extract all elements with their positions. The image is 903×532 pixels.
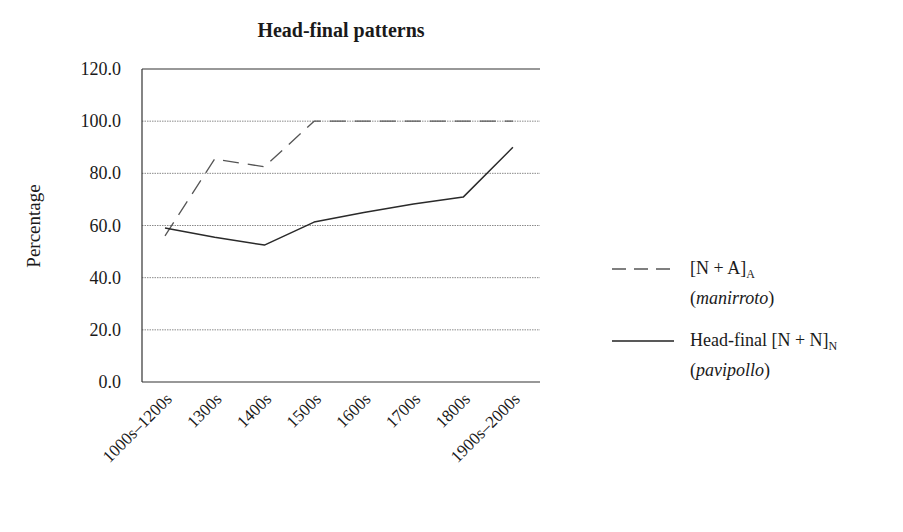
chart-title: Head-final patterns	[257, 19, 424, 42]
y-tick-labels: 0.020.040.060.080.0100.0120.0	[81, 59, 122, 392]
x-tick-label: 1800s	[432, 389, 474, 431]
legend-label-main: Head-final [N + N]	[690, 330, 829, 350]
y-tick-label: 100.0	[81, 111, 122, 131]
legend-label-gloss: manirroto	[696, 288, 768, 308]
y-tick-label: 120.0	[81, 59, 122, 79]
x-tick-label: 1700s	[382, 389, 424, 431]
y-axis-label: Percentage	[23, 184, 44, 267]
legend-label-subscript: A	[746, 267, 755, 281]
chart-container: Head-final patterns Percentage 0.020.040…	[0, 0, 903, 532]
legend-label-subscript: N	[829, 339, 838, 353]
x-tick-labels: 1000s–1200s1300s1400s1500s1600s1700s1800…	[99, 389, 524, 466]
series-line-n-plus-a	[165, 121, 513, 236]
gridlines	[142, 121, 540, 330]
legend-item-n-plus-a: [N + A]A (manirroto)	[612, 256, 902, 308]
x-tick-label: 1600s	[332, 389, 374, 431]
data-series	[165, 121, 513, 245]
x-tick-label: 1300s	[183, 389, 225, 431]
y-tick-label: 80.0	[90, 163, 122, 183]
y-tick-label: 0.0	[99, 372, 122, 392]
solid-line-swatch-icon	[612, 339, 674, 343]
x-tick-label: 1500s	[283, 389, 325, 431]
legend: [N + A]A (manirroto) Head-final [N + N]N…	[612, 256, 902, 400]
x-tick-label: 1400s	[233, 389, 275, 431]
y-tick-label: 20.0	[90, 320, 122, 340]
legend-label: [N + A]A (manirroto)	[690, 256, 774, 310]
x-tick-label: 1000s–1200s	[99, 389, 176, 466]
y-tick-label: 40.0	[90, 268, 122, 288]
series-line-n-plus-n	[165, 147, 513, 245]
legend-label: Head-final [N + N]N (pavipollo)	[690, 328, 837, 382]
legend-item-n-plus-n: Head-final [N + N]N (pavipollo)	[612, 328, 902, 380]
legend-label-main: [N + A]	[690, 258, 746, 278]
y-tick-label: 60.0	[90, 216, 122, 236]
legend-label-gloss: pavipollo	[696, 360, 764, 380]
dashed-line-swatch-icon	[612, 267, 674, 271]
